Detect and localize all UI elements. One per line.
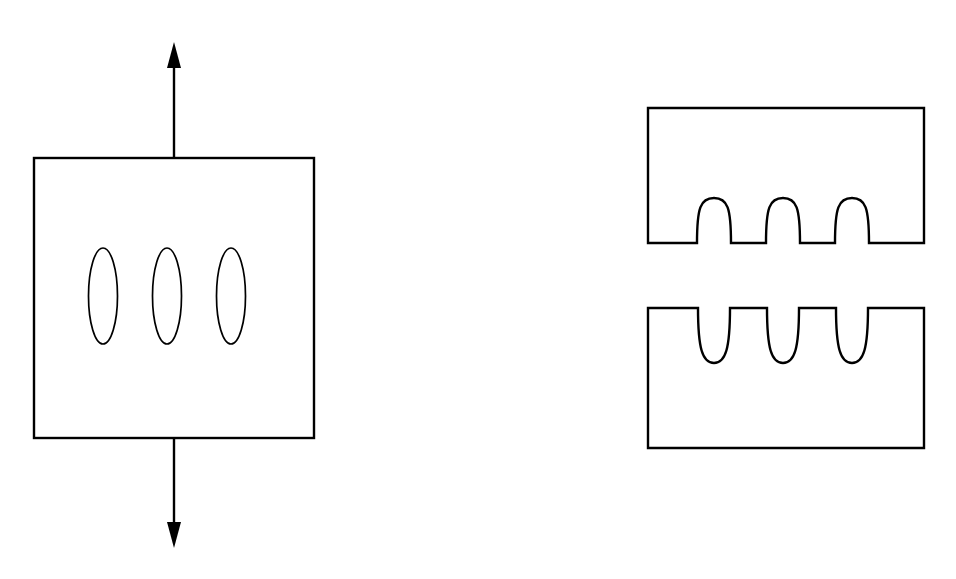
- elliptical-hole-3: [217, 248, 246, 344]
- tension-arrow-down-head: [167, 522, 181, 548]
- right-panel-mating-blocks: [648, 108, 924, 448]
- upper-block-outline: [648, 108, 924, 243]
- left-panel-plate-with-elliptical-holes: [34, 42, 314, 548]
- tension-arrow-up-head: [167, 42, 181, 68]
- elliptical-hole-1: [89, 248, 118, 344]
- tension-arrow-up: [167, 42, 181, 158]
- lower-block-outline: [648, 308, 924, 448]
- elliptical-hole-2: [153, 248, 182, 344]
- figure-canvas: [0, 0, 956, 579]
- plate-outline: [34, 158, 314, 438]
- tension-arrow-down: [167, 438, 181, 548]
- figure-root: [0, 0, 956, 579]
- elliptical-holes-group: [89, 248, 246, 344]
